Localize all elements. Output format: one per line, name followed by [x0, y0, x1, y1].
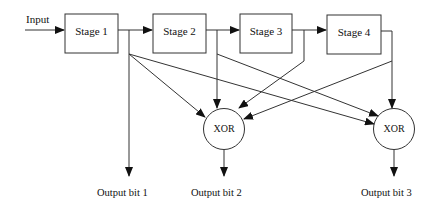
output-bit-1-label: Output bit 1: [97, 188, 148, 199]
stage1-to-xor2-arrow: [129, 54, 374, 124]
output-bit-3-label: Output bit 3: [361, 188, 412, 199]
stage1-to-xor1-arrow: [129, 54, 205, 117]
xor-2-label: XOR: [374, 124, 414, 134]
stage-2-label: Stage 2: [153, 26, 206, 37]
xor-1-label: XOR: [204, 124, 244, 134]
output-bit-2-label: Output bit 2: [191, 188, 242, 199]
stage-3-label: Stage 3: [240, 26, 292, 37]
stage3-to-xor1-arrow: [239, 30, 304, 108]
input-label: Input: [26, 14, 49, 25]
stage4-tap-line: [381, 31, 392, 61]
stage4-to-xor1-arrow: [244, 61, 392, 119]
stage-4-label: Stage 4: [327, 27, 381, 38]
stage-1-label: Stage 1: [65, 26, 118, 37]
